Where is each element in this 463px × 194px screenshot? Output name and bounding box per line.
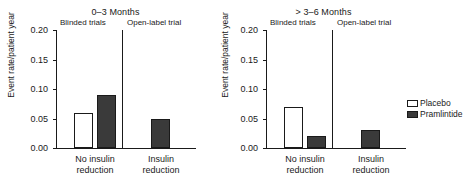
- x-axis-line: [56, 148, 196, 149]
- x-category-line-2: reduction: [340, 165, 402, 176]
- y-tick-1: 0.05: [53, 119, 56, 120]
- y-axis-title: Event rate/patient year: [6, 0, 16, 114]
- bar-pramlintide-no-insulin-reduction: [97, 95, 116, 148]
- bar-pramlintide-insulin-reduction: [151, 119, 170, 149]
- x-category-line-1: Insulin: [130, 154, 192, 165]
- subpanel-divider: [332, 30, 333, 148]
- subpanel-label-blinded-trials: Blinded trials: [60, 18, 106, 27]
- x-category-no-insulin-reduction: No insulin reduction: [274, 154, 336, 176]
- subpanel-label-blinded-trials: Blinded trials: [270, 18, 316, 27]
- panel-gt-3-6-months: > 3–6 Months Event rate/patient year 0.0…: [213, 0, 426, 194]
- legend: Placebo Pramlintide: [407, 98, 463, 120]
- bar-pramlintide-insulin-reduction: [361, 130, 380, 148]
- y-tick-label-3: 0.15: [240, 55, 258, 65]
- legend-label-pramlintide: Pramlintide: [420, 109, 463, 120]
- y-tick-0: 0.00: [263, 148, 266, 149]
- bar-placebo-no-insulin-reduction: [284, 107, 303, 148]
- x-axis-line: [266, 148, 406, 149]
- panel-0-3-months: 0–3 Months Event rate/patient year 0.00 …: [0, 0, 213, 194]
- bar-placebo-no-insulin-reduction: [74, 113, 93, 148]
- subpanel-label-open-label-trial: Open-label trial: [337, 18, 391, 27]
- plot-area: 0.00 0.05 0.10 0.15 0.20 Blinded trials …: [56, 30, 189, 148]
- y-tick-label-0: 0.00: [30, 143, 48, 153]
- bar-pramlintide-no-insulin-reduction: [307, 136, 326, 148]
- legend-item-pramlintide: Pramlintide: [407, 109, 463, 120]
- y-tick-label-0: 0.00: [240, 143, 258, 153]
- subpanel-label-open-label-trial: Open-label trial: [127, 18, 181, 27]
- y-tick-label-2: 0.10: [240, 84, 258, 94]
- x-category-insulin-reduction: Insulin reduction: [130, 154, 192, 176]
- x-category-line-1: No insulin: [64, 154, 126, 165]
- y-axis-title: Event rate/patient year: [220, 0, 230, 114]
- x-category-insulin-reduction: Insulin reduction: [340, 154, 402, 176]
- y-tick-3: 0.15: [263, 60, 266, 61]
- y-tick-2: 0.10: [53, 89, 56, 90]
- y-tick-label-4: 0.20: [240, 25, 258, 35]
- x-category-line-2: reduction: [64, 165, 126, 176]
- y-tick-3: 0.15: [53, 60, 56, 61]
- x-category-line-1: No insulin: [274, 154, 336, 165]
- legend-swatch-placebo-icon: [407, 100, 418, 107]
- y-tick-4: 0.20: [53, 30, 56, 31]
- panel-title: > 3–6 Months: [213, 7, 426, 17]
- y-tick-1: 0.05: [263, 119, 266, 120]
- panel-title: 0–3 Months: [0, 7, 213, 17]
- y-tick-2: 0.10: [263, 89, 266, 90]
- y-tick-4: 0.20: [263, 30, 266, 31]
- x-category-line-2: reduction: [130, 165, 192, 176]
- x-category-line-1: Insulin: [340, 154, 402, 165]
- y-axis-line: [266, 30, 267, 148]
- x-category-line-2: reduction: [274, 165, 336, 176]
- plot-area: 0.00 0.05 0.10 0.15 0.20 Blinded trials …: [266, 30, 399, 148]
- y-axis-line: [56, 30, 57, 148]
- y-tick-label-1: 0.05: [240, 114, 258, 124]
- legend-swatch-pramlintide-icon: [407, 111, 418, 118]
- legend-label-placebo: Placebo: [420, 98, 451, 109]
- y-tick-label-1: 0.05: [30, 114, 48, 124]
- subpanel-divider: [122, 30, 123, 148]
- y-tick-label-2: 0.10: [30, 84, 48, 94]
- y-tick-label-4: 0.20: [30, 25, 48, 35]
- y-tick-0: 0.00: [53, 148, 56, 149]
- y-tick-label-3: 0.15: [30, 55, 48, 65]
- legend-item-placebo: Placebo: [407, 98, 463, 109]
- x-category-no-insulin-reduction: No insulin reduction: [64, 154, 126, 176]
